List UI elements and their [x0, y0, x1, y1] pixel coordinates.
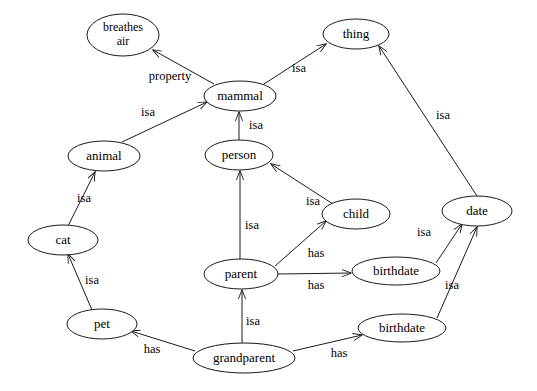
node-person[interactable]: person	[205, 140, 273, 170]
edge-date-to-thing	[379, 46, 477, 196]
node-label-birthdate_2: birthdate	[379, 320, 425, 335]
edge-grandparent-to-birthdate_2	[293, 335, 362, 351]
node-label-child: child	[343, 206, 369, 221]
node-label-grandparent: grandparent	[213, 350, 275, 365]
node-label-cat: cat	[55, 232, 71, 247]
node-pet[interactable]: pet	[67, 309, 137, 339]
edge-label-e12: isa	[445, 278, 459, 292]
node-thing[interactable]: thing	[323, 19, 389, 49]
node-label-parent: parent	[225, 266, 258, 281]
edge-label-e8: isa	[245, 218, 259, 232]
node-grandparent[interactable]: grandparent	[193, 343, 295, 373]
edge-label-e7: isa	[85, 273, 99, 287]
edge-label-e2: isa	[292, 61, 306, 75]
edge-label-e6: isa	[306, 194, 320, 208]
node-parent[interactable]: parent	[204, 259, 278, 289]
node-label-pet: pet	[94, 316, 110, 331]
edge-label-e3: isa	[141, 105, 155, 119]
node-label-animal: animal	[86, 148, 122, 163]
edge-label-e14: has	[144, 342, 161, 356]
diagram-canvas: breathesairthingmammalanimalpersonchildd…	[0, 0, 537, 391]
node-label-birthdate_1: birthdate	[373, 263, 419, 278]
edge-parent-to-birthdate_1	[278, 273, 351, 274]
edge-label-e10: has	[308, 278, 325, 292]
edge-animal-to-mammal	[122, 102, 207, 142]
edge-label-e11: isa	[417, 225, 431, 239]
edge-label-e9: has	[308, 246, 325, 260]
node-animal[interactable]: animal	[68, 141, 140, 171]
edge-label-e13: isa	[436, 108, 450, 122]
node-mammal[interactable]: mammal	[204, 81, 276, 111]
edge-label-e15: isa	[246, 314, 260, 328]
node-cat[interactable]: cat	[28, 225, 98, 255]
node-label-person: person	[222, 147, 257, 162]
nodes-layer: breathesairthingmammalanimalpersonchildd…	[28, 14, 512, 373]
node-birthdate_2[interactable]: birthdate	[358, 314, 446, 342]
node-child[interactable]: child	[322, 199, 390, 229]
node-label-mammal: mammal	[217, 88, 263, 103]
edge-birthdate_2-to-date	[437, 227, 477, 318]
edge-birthdate_1-to-date	[436, 224, 462, 263]
node-birthdate_1[interactable]: birthdate	[352, 257, 440, 285]
edge-grandparent-to-pet	[131, 331, 195, 351]
edge-label-e16: has	[331, 346, 348, 360]
node-label-thing: thing	[343, 26, 370, 41]
edge-child-to-person	[271, 164, 333, 204]
edge-label-e1: property	[149, 69, 192, 83]
edge-label-e4: isa	[249, 118, 263, 132]
edge-label-e5: isa	[77, 191, 91, 205]
node-breathes_air[interactable]: breathesair	[87, 14, 159, 56]
node-label-date: date	[466, 203, 488, 218]
node-date[interactable]: date	[442, 196, 512, 226]
semantic-network-diagram: breathesairthingmammalanimalpersonchildd…	[0, 0, 537, 391]
